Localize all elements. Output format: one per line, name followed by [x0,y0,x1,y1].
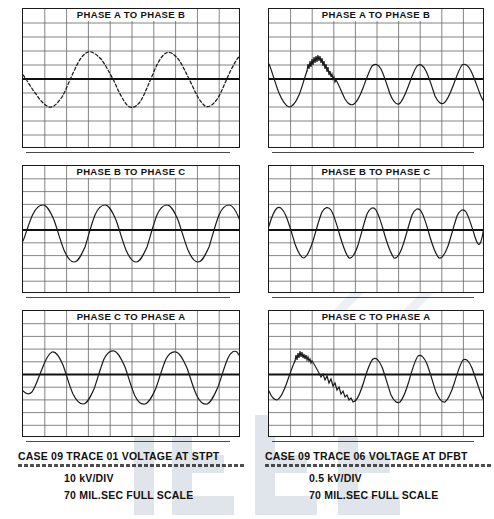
panel-title-R2: PHASE B TO PHASE C [318,166,433,178]
caption-right-full-scale: 70 MIL.SEC FULL SCALE [265,489,493,501]
scope-graticule-L2 [22,165,240,293]
scope-panel-R1[interactable]: PHASE A TO PHASE B [268,8,484,148]
scope-panel-R3[interactable]: PHASE C TO PHASE A [268,310,484,437]
panel-underline-R1 [272,152,474,153]
scope-panel-R2[interactable]: PHASE B TO PHASE C [268,165,484,293]
panel-title-R1: PHASE A TO PHASE B [319,9,433,21]
caption-right-main: CASE 09 TRACE 06 VOLTAGE AT DFBT [265,450,493,462]
caption-left-rule [18,464,244,467]
panel-title-R3: PHASE C TO PHASE A [319,311,434,323]
panel-underline-R2 [272,297,474,298]
caption-right: CASE 09 TRACE 06 VOLTAGE AT DFBT 0.5 kV/… [265,450,493,501]
scope-graticule-L1 [22,8,240,148]
caption-right-volts-per-div: 0.5 kV/DIV [265,472,493,484]
caption-left: CASE 09 TRACE 01 VOLTAGE AT STPT 10 kV/D… [18,450,244,501]
caption-left-main: CASE 09 TRACE 01 VOLTAGE AT STPT [18,450,244,462]
caption-left-full-scale: 70 MIL.SEC FULL SCALE [18,489,244,501]
panel-underline-L2 [26,297,230,298]
scope-graticule-R3 [268,310,484,437]
scope-graticule-R2 [268,165,484,293]
scope-panel-L1[interactable]: PHASE A TO PHASE B [22,8,240,148]
panel-underline-L1 [26,152,230,153]
panel-underline-R3 [272,441,474,442]
panel-title-L1: PHASE A TO PHASE B [74,9,188,21]
caption-right-rule [265,464,493,467]
panel-title-L3: PHASE C TO PHASE A [74,311,189,323]
panel-title-L2: PHASE B TO PHASE C [73,166,188,178]
scope-panel-L3[interactable]: PHASE C TO PHASE A [22,310,240,437]
panel-underline-L3 [26,441,230,442]
scope-graticule-R1 [268,8,484,148]
scope-panel-L2[interactable]: PHASE B TO PHASE C [22,165,240,293]
caption-left-volts-per-div: 10 kV/DIV [18,472,244,484]
scope-graticule-L3 [22,310,240,437]
